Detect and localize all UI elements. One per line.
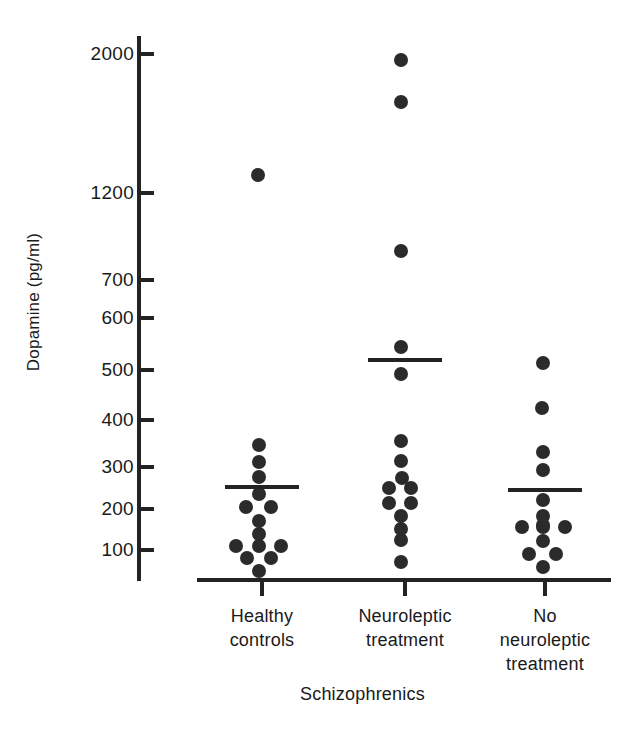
data-point [394, 53, 408, 67]
mean-line [368, 358, 442, 362]
data-point [536, 463, 550, 477]
data-point [252, 470, 266, 484]
y-tick-mark [141, 507, 154, 511]
data-point [394, 533, 408, 547]
data-point [394, 340, 408, 354]
data-point [252, 438, 266, 452]
mean-line [508, 488, 582, 492]
data-point [536, 445, 550, 459]
mean-line [225, 485, 299, 489]
data-point [394, 367, 408, 381]
data-point [239, 500, 253, 514]
y-tick-label: 200 [50, 499, 134, 518]
data-point [252, 487, 266, 501]
x-tick-mark [260, 582, 264, 596]
y-tick-label: 100 [50, 540, 134, 559]
y-tick-mark [141, 191, 154, 195]
data-point [229, 539, 243, 553]
y-tick-mark [141, 316, 154, 320]
data-point [522, 547, 536, 561]
y-tick-mark [141, 465, 154, 469]
x-tick-mark [543, 582, 547, 596]
category-label-line: treatment [455, 652, 635, 676]
data-point [394, 244, 408, 258]
data-point [382, 481, 396, 495]
data-point [549, 547, 563, 561]
data-point [394, 555, 408, 569]
x-axis-group-title: Schizophrenics [300, 684, 600, 705]
data-point [515, 520, 529, 534]
data-point [252, 539, 266, 553]
data-point [535, 401, 549, 415]
data-point [264, 551, 278, 565]
data-point [404, 496, 418, 510]
data-point [394, 509, 408, 523]
x-axis-category-label: Noneuroleptictreatment [455, 604, 635, 676]
data-point [394, 454, 408, 468]
data-point [536, 518, 550, 532]
y-tick-mark [141, 52, 154, 56]
data-point [251, 168, 265, 182]
y-tick-mark [141, 418, 154, 422]
cropped-caption-sliver [26, 724, 616, 731]
data-point [240, 551, 254, 565]
dopamine-scatter-figure: Dopamine (pg/ml) 20001200700600500400300… [0, 0, 637, 731]
y-tick-mark [141, 548, 154, 552]
data-point [394, 95, 408, 109]
x-tick-mark [403, 582, 407, 596]
data-point [382, 496, 396, 510]
data-point [536, 356, 550, 370]
y-tick-label: 300 [50, 457, 134, 476]
data-point [252, 564, 266, 578]
y-tick-mark [141, 278, 154, 282]
y-tick-label: 400 [50, 410, 134, 429]
data-point [252, 455, 266, 469]
y-tick-label: 1200 [50, 183, 134, 202]
data-point [404, 481, 418, 495]
data-point [252, 514, 266, 528]
y-tick-mark [141, 368, 154, 372]
data-point [536, 493, 550, 507]
y-axis-line [137, 36, 141, 581]
data-point [536, 560, 550, 574]
y-tick-label: 600 [50, 308, 134, 327]
category-label-line: No [455, 604, 635, 628]
y-axis-title: Dopamine (pg/ml) [24, 172, 44, 432]
y-tick-label: 500 [50, 360, 134, 379]
category-label-line: neuroleptic [455, 628, 635, 652]
y-tick-label: 2000 [50, 44, 134, 63]
data-point [558, 520, 572, 534]
data-point [264, 500, 278, 514]
data-point [274, 539, 288, 553]
data-point [536, 534, 550, 548]
y-tick-label: 700 [50, 270, 134, 289]
data-point [394, 434, 408, 448]
